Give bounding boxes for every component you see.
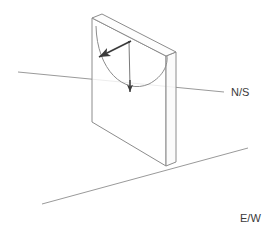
- swing-plane: [92, 14, 176, 166]
- diagram-canvas: N/S E/W: [0, 0, 270, 232]
- ew-axis-label: E/W: [240, 212, 261, 224]
- plane-side-face: [166, 52, 176, 166]
- ns-axis-label: N/S: [231, 86, 249, 98]
- foucault-pendulum-diagram: N/S E/W: [0, 0, 270, 232]
- ground-ew-axis-line: [42, 148, 248, 204]
- plane-front-face: [92, 18, 166, 166]
- pendulum-pivot-point: [128, 41, 130, 43]
